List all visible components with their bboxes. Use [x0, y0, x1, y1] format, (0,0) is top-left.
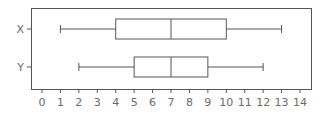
x-tick-label: 14	[293, 96, 307, 109]
x-tick-label: 13	[275, 96, 289, 109]
x-tick-label: 10	[219, 96, 233, 109]
x-tick-label: 12	[256, 96, 270, 109]
x-tick-label: 1	[57, 96, 64, 109]
y-category-label: X	[16, 23, 24, 36]
x-tick-label: 4	[112, 96, 119, 109]
x-tick-label: 0	[39, 96, 46, 109]
x-tick-label: 5	[131, 96, 138, 109]
y-axis: XY	[16, 23, 31, 74]
box-plot-chart: 01234567891011121314 XY	[0, 0, 328, 114]
x-axis: 01234567891011121314	[39, 89, 308, 109]
box-y	[79, 57, 263, 77]
boxes	[60, 19, 281, 77]
x-tick-label: 9	[204, 96, 211, 109]
x-tick-label: 8	[186, 96, 193, 109]
box-x	[60, 19, 281, 39]
x-tick-label: 2	[75, 96, 82, 109]
x-tick-label: 3	[94, 96, 101, 109]
x-tick-label: 11	[238, 96, 252, 109]
x-tick-label: 7	[168, 96, 175, 109]
y-category-label: Y	[16, 61, 24, 74]
x-tick-label: 6	[149, 96, 156, 109]
